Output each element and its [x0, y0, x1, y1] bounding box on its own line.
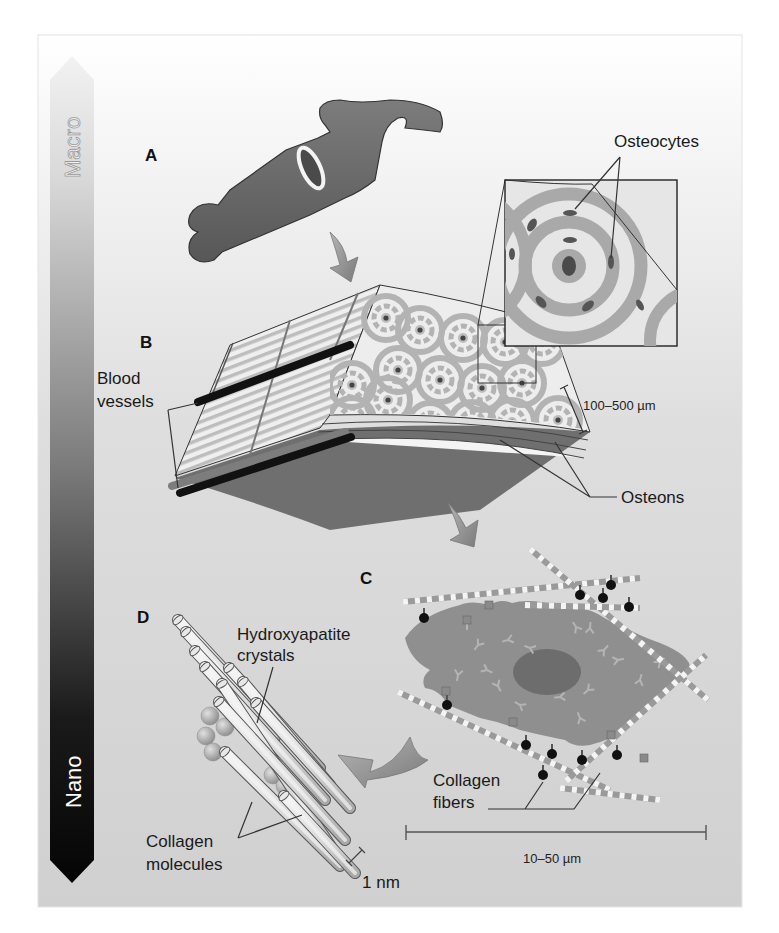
- matrix-protein: [607, 731, 615, 739]
- cell-scale-label: 10–50 µm: [523, 851, 581, 866]
- osteon-scale-label: 100–500 µm: [583, 398, 656, 413]
- blood-vessels-label-2: vessels: [97, 392, 154, 411]
- hydroxyapatite-crystal: [197, 727, 215, 745]
- cell-nucleus: [513, 649, 581, 695]
- hydroxyapatite-crystal: [201, 707, 219, 725]
- blood-vessels-label: Blood: [97, 369, 140, 388]
- panel-a-label: A: [145, 146, 157, 165]
- matrix-protein: [509, 718, 517, 726]
- hydroxyapatite-label: Hydroxyapatite: [237, 625, 350, 644]
- matrix-protein: [442, 687, 450, 695]
- collagen-fibers-label: Collagen: [433, 771, 500, 790]
- scale-bar-macro-label: Macro: [60, 117, 85, 178]
- osteocytes-label: Osteocytes: [614, 132, 699, 151]
- matrix-protein: [640, 754, 648, 762]
- scale-bar-macro-nano: Macro Nano: [50, 56, 94, 883]
- matrix-protein: [463, 616, 471, 624]
- collagen-fiber: [525, 605, 640, 608]
- bone-hierarchy-figure: Macro Nano A B: [0, 0, 779, 933]
- panel-c-label: C: [360, 569, 372, 588]
- scale-bar-nano-label: Nano: [61, 755, 86, 808]
- panel-b-label: B: [140, 333, 152, 352]
- collagen-molecules-label-2: molecules: [146, 855, 223, 874]
- collagen-molecules-label: Collagen: [146, 832, 213, 851]
- hydroxyapatite-label-2: crystals: [237, 646, 295, 665]
- osteons-label: Osteons: [621, 488, 684, 507]
- matrix-protein: [485, 601, 493, 609]
- collagen-fibers-label-2: fibers: [433, 793, 475, 812]
- panel-d-label: D: [137, 608, 149, 627]
- molecule-scale-label: 1 nm: [362, 873, 400, 892]
